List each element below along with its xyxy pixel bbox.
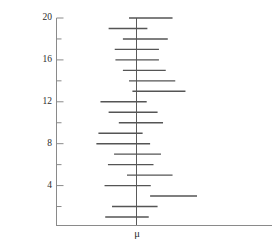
y-axis-tick-label: 20 [28, 13, 52, 23]
x-axis-title: μ [127, 229, 147, 240]
y-axis-tick-label: 8 [28, 139, 52, 149]
y-axis-tick-label: 16 [28, 55, 52, 65]
confidence-interval-plot: Interval number 20161284 μ [0, 0, 274, 249]
y-axis-tick-label: 4 [28, 181, 52, 191]
y-axis-ticks [57, 18, 64, 207]
confidence-intervals-group [96, 18, 197, 217]
y-axis-tick-label: 12 [28, 97, 52, 107]
axes-group [56, 18, 272, 226]
plot-canvas [0, 0, 274, 249]
